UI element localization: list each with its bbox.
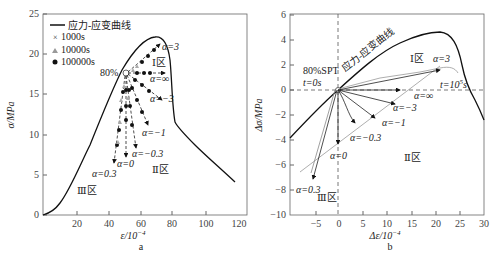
legend-1000-label: 1000s (61, 31, 85, 42)
x-tick-label: 100 (199, 218, 214, 229)
triangle-marker-icon (52, 48, 58, 53)
annotation-zone-3: Ⅲ区 (317, 192, 337, 203)
annotation-t-1e5: t=105s (440, 78, 467, 90)
x-tick-label: 40 (104, 218, 114, 229)
annotation-80pct-spt: 80%SPT (303, 65, 339, 76)
figure: 0 5 10 15 20 25 σ/MPa 20 40 60 80 100 12… (0, 0, 499, 255)
y-axis-a: 0 5 10 15 20 25 σ/MPa (5, 8, 47, 220)
x-tick-label: 20 (72, 218, 82, 229)
panel-caption: a (139, 241, 144, 252)
cross-marker-icon: × (53, 33, 58, 42)
x-tick-label: 80 (167, 218, 177, 229)
annotation-zone-2: Ⅱ区 (152, 164, 169, 175)
x-axis-label: Δε/10−4 (369, 229, 401, 241)
y-tick-label: 4 (281, 34, 286, 45)
x-tick-label: 60 (136, 218, 146, 229)
y-tick-label: −8 (275, 184, 286, 195)
annotation-alpha-neg03: α=−0.3 (132, 148, 163, 159)
annotation-t0: t=0s (303, 77, 322, 88)
x-tick-label: 120 (232, 218, 247, 229)
y-tick-label: 20 (29, 48, 39, 59)
annotation-zone-2: Ⅱ区 (404, 152, 421, 163)
x-tick-label: 10 (382, 218, 392, 229)
annotation-zone-3: Ⅲ区 (77, 185, 97, 196)
annotation-alpha-0: α=0 (330, 150, 347, 161)
annotation-alpha-neg1: α=−1 (142, 127, 166, 138)
x-axis-label: ε/10−4 (121, 229, 146, 241)
y-tick-label: 10 (29, 129, 39, 140)
y-tick-label: −4 (275, 134, 286, 145)
y-tick-label: 6 (281, 9, 286, 20)
x-tick-label: 15 (407, 218, 417, 229)
annotation-alpha-inf: α=∞ (150, 73, 169, 84)
annotation-zone-1: Ⅰ区 (152, 57, 166, 68)
y-tick-label: 15 (29, 88, 39, 99)
annotation-alpha-03: α=0.3 (92, 168, 117, 179)
annotation-zone-1: Ⅰ区 (410, 53, 424, 64)
x-axis-b: −5 0 5 10 15 20 25 30 Δε/10−4 b (311, 211, 489, 252)
annotation-alpha-inf: α=∞ (414, 90, 433, 101)
annotation-alpha-neg1: α=−1 (382, 117, 406, 128)
y-tick-label: −2 (275, 109, 286, 120)
annotation-alpha-neg3: α=−3 (150, 93, 174, 104)
x-tick-label: 25 (455, 218, 465, 229)
y-tick-label: −6 (275, 159, 286, 170)
y-axis-b: 6 4 2 0 −2 −4 −6 −8 −10 Δσ/MPa (253, 9, 294, 220)
y-tick-label: 0 (34, 209, 39, 220)
annotation-alpha-3: α=3 (433, 53, 450, 64)
y-tick-label: 0 (281, 84, 286, 95)
annotation-alpha-0: α=0 (117, 158, 134, 169)
y-tick-label: 25 (29, 8, 39, 19)
legend-100000-label: 100000s (61, 56, 95, 67)
annotation-alpha-neg3: α=−3 (393, 102, 417, 113)
panel-b: 6 4 2 0 −2 −4 −6 −8 −10 Δσ/MPa −5 0 5 10… (253, 9, 489, 252)
legend-10000-label: 10000s (61, 44, 90, 55)
y-axis-label: σ/MPa (5, 101, 16, 128)
x-tick-label: 30 (479, 218, 489, 229)
y-tick-label: 5 (34, 169, 39, 180)
annotation-alpha-3: α=3 (162, 41, 179, 52)
annotation-alpha-neg03: α=−0.3 (350, 132, 381, 143)
y-axis-label: Δσ/MPa (253, 98, 264, 132)
y-tick-label: 2 (281, 59, 286, 70)
x-tick-label: 5 (361, 218, 366, 229)
legend-curve-label: 应力-应变曲线 (68, 19, 131, 31)
panel-caption: b (388, 241, 393, 252)
y-tick-label: −10 (270, 209, 286, 220)
panel-a: 0 5 10 15 20 25 σ/MPa 20 40 60 80 100 12… (5, 8, 247, 252)
x-tick-label: −5 (311, 218, 322, 229)
dot-marker-icon (53, 60, 58, 65)
x-tick-label: 20 (431, 218, 441, 229)
legend-a: 应力-应变曲线 × 1000s 10000s 100000s (50, 19, 131, 67)
x-axis-a: 20 40 60 80 100 120 ε/10−4 a (72, 211, 247, 252)
annotation-80pct: 80% (100, 67, 118, 78)
x-tick-label: 0 (337, 218, 342, 229)
